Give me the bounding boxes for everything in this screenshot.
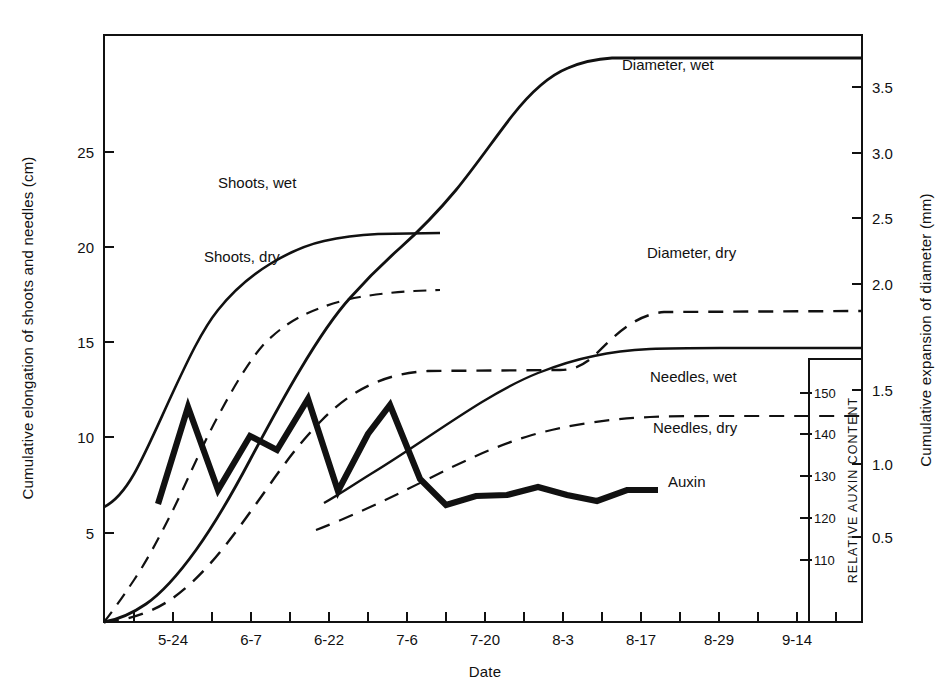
x-tick-7-20: 7-20 (470, 631, 500, 648)
inset-tick-110: 110 (814, 553, 835, 568)
x-axis-title: Date (469, 663, 502, 680)
chart-canvas: 25 20 15 10 5 Cumulative elongation of s… (0, 0, 946, 697)
y-right-tick-1-5: 1.5 (872, 382, 893, 399)
x-tick-5-24: 5-24 (158, 631, 188, 648)
y-right-tick-2-5: 2.5 (872, 210, 893, 227)
inset-tick-140: 140 (814, 427, 836, 442)
label-shoots-dry: Shoots, dry (204, 248, 280, 265)
label-diameter-wet: Diameter, wet (622, 56, 715, 73)
x-tick-9-14: 9-14 (782, 631, 812, 648)
y-right-tick-2-0: 2.0 (872, 276, 893, 293)
y-left-tick-5: 5 (86, 525, 94, 542)
label-needles-wet: Needles, wet (650, 368, 738, 385)
x-tick-8-17: 8-17 (626, 631, 656, 648)
x-tick-7-6: 7-6 (396, 631, 418, 648)
inset-axis-title: RELATIVE AUXIN CONTENT (846, 397, 860, 583)
y-right-axis-title: Cumulative expansion of diameter (mm) (917, 193, 934, 466)
y-right-tick-3-5: 3.5 (872, 79, 893, 96)
x-tick-8-3: 8-3 (552, 631, 574, 648)
inset-tick-120: 120 (814, 511, 836, 526)
x-tick-8-29: 8-29 (704, 631, 734, 648)
y-left-tick-10: 10 (77, 429, 94, 446)
y-right-tick-0-5: 0.5 (872, 529, 893, 546)
label-auxin: Auxin (668, 473, 706, 490)
inset-tick-130: 130 (814, 469, 836, 484)
y-left-axis-title: Cumulative elongation of shoots and need… (19, 156, 36, 499)
x-tick-6-22: 6-22 (314, 631, 344, 648)
label-shoots-wet: Shoots, wet (218, 174, 297, 191)
label-needles-dry: Needles, dry (653, 419, 738, 436)
inset-tick-150: 150 (814, 386, 836, 401)
y-left-tick-20: 20 (77, 239, 94, 256)
y-right-tick-3-0: 3.0 (872, 145, 893, 162)
y-left-tick-25: 25 (77, 144, 94, 161)
x-tick-6-7: 6-7 (240, 631, 262, 648)
label-diameter-dry: Diameter, dry (647, 244, 737, 261)
y-right-tick-1-0: 1.0 (872, 456, 893, 473)
chart-figure: 25 20 15 10 5 Cumulative elongation of s… (0, 0, 946, 697)
y-left-tick-15: 15 (77, 334, 94, 351)
